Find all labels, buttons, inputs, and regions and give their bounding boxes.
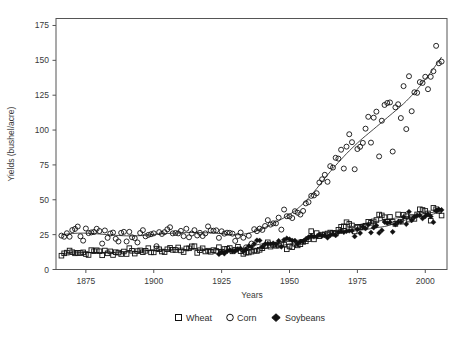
data-point — [344, 144, 349, 149]
data-point — [349, 140, 354, 145]
data-point — [398, 116, 403, 121]
x-tick-label: 1975 — [348, 276, 367, 286]
data-point — [67, 234, 72, 239]
data-point — [409, 109, 414, 114]
data-point — [431, 220, 436, 225]
data-point — [216, 235, 221, 240]
legend-wheat-marker — [176, 315, 182, 321]
data-point — [189, 231, 194, 236]
y-tick-labels: 0255075100125150175 — [35, 20, 49, 274]
data-point — [184, 226, 189, 231]
chart-canvas: 0255075100125150175 18751900192519501975… — [0, 0, 465, 337]
data-point — [390, 229, 395, 234]
data-point — [276, 215, 281, 220]
x-tick-label: 1950 — [280, 276, 299, 286]
y-axis-label: Yields (bushel/acre) — [6, 106, 16, 181]
data-point — [102, 228, 107, 233]
data-point — [301, 208, 306, 213]
data-point — [192, 228, 197, 233]
data-point — [309, 229, 314, 234]
series-wheat — [59, 206, 444, 258]
x-tick-label: 1925 — [212, 276, 231, 286]
data-point — [371, 115, 376, 120]
data-point — [390, 149, 395, 154]
data-point — [64, 231, 69, 236]
data-point — [374, 109, 379, 114]
data-point — [347, 132, 352, 137]
data-point — [377, 154, 382, 159]
y-tick-label: 0 — [44, 265, 49, 275]
data-point — [325, 179, 330, 184]
data-point — [127, 229, 132, 234]
x-tick-label: 1900 — [144, 276, 163, 286]
x-axis-label: Years — [241, 290, 262, 300]
data-point — [339, 147, 344, 152]
data-point — [279, 227, 284, 232]
legend-soybeans-label: Soybeans — [285, 313, 326, 323]
data-point — [360, 140, 365, 145]
data-point — [83, 226, 88, 231]
data-point — [100, 241, 105, 246]
data-point — [404, 127, 409, 132]
legend-corn-marker — [227, 314, 234, 321]
data-point — [246, 233, 251, 238]
data-point — [233, 238, 238, 243]
x-tick-label: 2000 — [416, 276, 435, 286]
data-point — [81, 238, 86, 243]
data-point — [396, 212, 401, 217]
x-tick-label: 1875 — [76, 276, 95, 286]
legend-soybeans-marker — [272, 314, 280, 322]
data-point — [363, 126, 368, 131]
x-axis-ticks — [86, 270, 425, 274]
data-point — [434, 43, 439, 48]
data-point — [425, 87, 430, 92]
data-point — [406, 74, 411, 79]
y-tick-label: 125 — [35, 90, 49, 100]
data-point — [393, 105, 398, 110]
legend: Wheat Corn Soybeans — [176, 313, 326, 323]
x-tick-labels: 187519001925195019752000 — [76, 276, 435, 286]
data-point — [358, 231, 363, 236]
data-point — [428, 74, 433, 79]
y-tick-label: 75 — [40, 160, 50, 170]
data-point — [401, 84, 406, 89]
data-point — [322, 172, 327, 177]
data-point — [368, 140, 373, 145]
y-tick-label: 150 — [35, 55, 49, 65]
data-point — [352, 167, 357, 172]
y-tick-label: 175 — [35, 20, 49, 30]
data-point — [181, 234, 186, 239]
data-point — [341, 166, 346, 171]
trend-line-corn — [61, 57, 441, 236]
data-point — [124, 239, 129, 244]
data-point — [352, 234, 357, 239]
data-series-layer — [59, 43, 444, 258]
data-point — [135, 240, 140, 245]
data-point — [282, 207, 287, 212]
data-point — [396, 102, 401, 107]
yield-chart-figure: 0255075100125150175 18751900192519501975… — [0, 0, 465, 337]
legend-corn-label: Corn — [237, 313, 257, 323]
legend-wheat-label: Wheat — [186, 313, 213, 323]
y-tick-label: 25 — [40, 230, 50, 240]
data-point — [241, 235, 246, 240]
data-point — [368, 230, 373, 235]
data-point — [439, 213, 444, 218]
y-tick-label: 100 — [35, 125, 49, 135]
y-tick-label: 50 — [40, 195, 50, 205]
plot-frame — [56, 19, 447, 270]
data-point — [366, 114, 371, 119]
data-point — [235, 234, 240, 239]
y-axis-ticks — [53, 25, 57, 269]
